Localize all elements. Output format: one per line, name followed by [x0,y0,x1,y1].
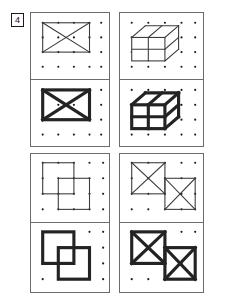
figure-thin-isometric-box [120,13,203,79]
isometric-box-shape [132,92,179,128]
figure-bold-overlapping-squares [31,223,109,292]
worksheet-page: 4 [0,0,232,305]
overlapping-squares-shape [43,163,90,210]
panel-bottom-right-bold [120,223,203,292]
panel-bottom-left-thin [31,154,109,223]
panel-top-left-bold [31,80,109,147]
figure-thin-x-rectangle [31,13,109,79]
panel-top-right-thin [120,13,203,80]
panel-top-right-bold [120,80,203,147]
figure-bold-isometric-box [120,80,203,147]
overlapping-x-squares-shape [132,232,195,279]
overlapping-squares-shape [43,232,90,279]
figure-thin-overlapping-x-squares [120,154,203,222]
item-number-badge: 4 [11,13,24,27]
overlapping-x-squares-shape [132,163,195,210]
cell-top-right [119,12,204,147]
isometric-box-shape [132,26,179,61]
dot-grid [42,22,103,68]
panel-bottom-right-thin [120,154,203,223]
cell-bottom-right [119,153,204,293]
x-rectangle-shape [43,23,90,52]
cell-top-left [30,12,110,147]
cell-bottom-left [30,153,110,293]
panel-top-left-thin [31,13,109,80]
figure-bold-x-rectangle [31,80,109,147]
x-rectangle-shape [43,89,90,119]
panel-bottom-left-bold [31,223,109,292]
figure-thin-overlapping-squares [31,154,109,222]
dot-grid [42,162,105,211]
figure-bold-overlapping-x-squares [120,223,203,292]
